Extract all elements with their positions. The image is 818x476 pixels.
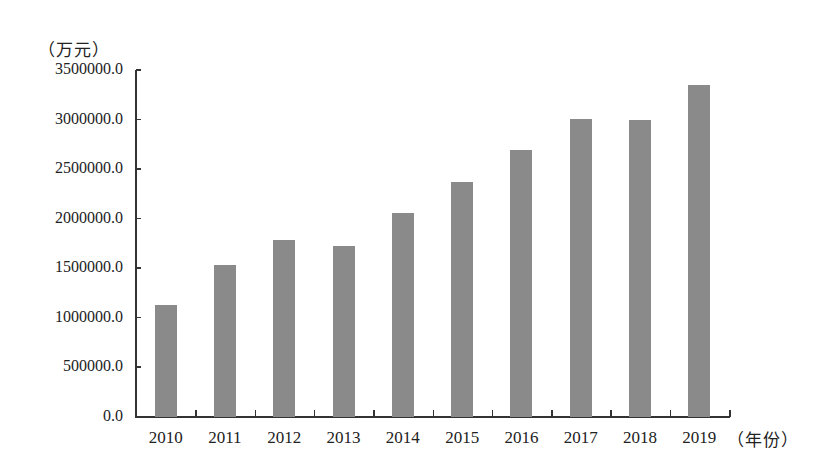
x-tick-label: 2015 xyxy=(432,428,492,448)
y-tick-mark xyxy=(136,317,141,319)
x-tick-label: 2010 xyxy=(136,428,196,448)
y-axis-unit-label: （万元） xyxy=(38,36,110,61)
bar-2013 xyxy=(333,246,355,417)
bar-2012 xyxy=(273,240,295,417)
bar-2018 xyxy=(629,120,651,417)
y-tick-mark xyxy=(136,119,141,121)
y-tick-label: 1500000.0 xyxy=(0,259,123,275)
x-tick-mark xyxy=(195,410,197,417)
x-tick-mark xyxy=(492,410,494,417)
bar-2015 xyxy=(451,182,473,417)
x-tick-label: 2013 xyxy=(314,428,374,448)
y-tick-label: 500000.0 xyxy=(0,358,123,374)
y-tick-mark xyxy=(136,267,141,269)
y-tick-mark xyxy=(136,366,141,368)
y-tick-label: 2000000.0 xyxy=(0,210,123,226)
bar-2014 xyxy=(392,213,414,417)
x-tick-label: 2012 xyxy=(254,428,314,448)
y-tick-label: 3000000.0 xyxy=(0,111,123,127)
x-tick-label: 2018 xyxy=(610,428,670,448)
x-tick-label: 2019 xyxy=(669,428,729,448)
y-tick-label: 2500000.0 xyxy=(0,160,123,176)
x-tick-mark xyxy=(373,410,375,417)
y-tick-mark xyxy=(136,218,141,220)
y-tick-mark xyxy=(136,69,141,71)
x-axis-unit-label: （年份） xyxy=(727,426,799,451)
bar-2010 xyxy=(155,305,177,417)
x-tick-label: 2011 xyxy=(195,428,255,448)
x-tick-mark xyxy=(610,410,612,417)
x-tick-label: 2016 xyxy=(491,428,551,448)
y-tick-label: 3500000.0 xyxy=(0,61,123,77)
bar-2019 xyxy=(688,85,710,417)
x-tick-mark xyxy=(433,410,435,417)
x-tick-mark xyxy=(314,410,316,417)
x-tick-label: 2017 xyxy=(551,428,611,448)
x-tick-mark xyxy=(670,410,672,417)
bar-2011 xyxy=(214,265,236,417)
x-tick-mark xyxy=(729,410,731,417)
y-tick-mark xyxy=(136,168,141,170)
y-tick-label: 1000000.0 xyxy=(0,309,123,325)
x-tick-mark xyxy=(551,410,553,417)
bar-2016 xyxy=(510,150,532,417)
bar-2017 xyxy=(570,119,592,417)
y-tick-label: 0.0 xyxy=(0,408,123,424)
x-tick-mark xyxy=(255,410,257,417)
x-tick-label: 2014 xyxy=(373,428,433,448)
